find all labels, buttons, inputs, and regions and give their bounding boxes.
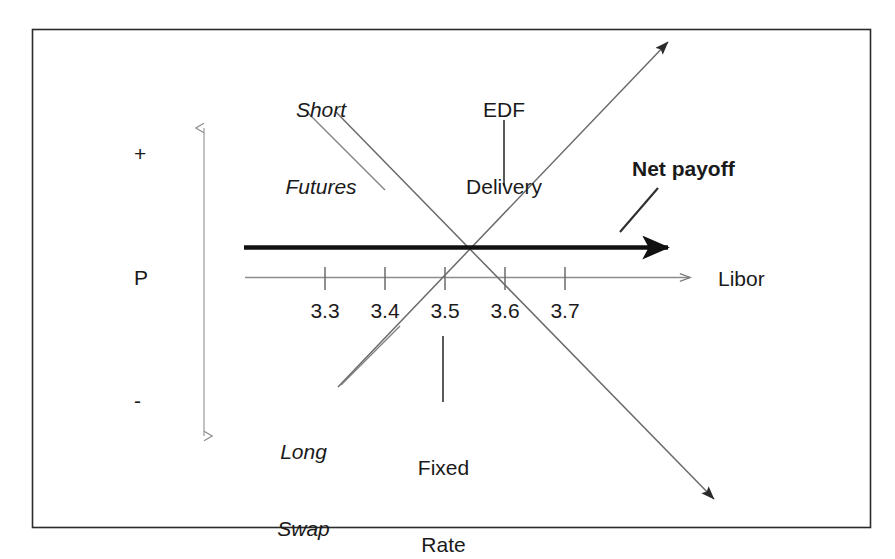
net-payoff-leader-line bbox=[620, 188, 658, 232]
fixed-rate-label-line1: Fixed bbox=[396, 455, 491, 481]
x-axis-ticks bbox=[325, 267, 565, 290]
x-tick-label: 3.4 bbox=[355, 299, 415, 323]
fixed-rate-label-line2: Rate bbox=[396, 532, 491, 558]
long-swap-label-line1: Long bbox=[256, 439, 351, 465]
edf-delivery-label: EDF Delivery bbox=[444, 46, 564, 251]
x-axis-label: Libor bbox=[718, 266, 765, 292]
y-axis-negative-symbol: - bbox=[134, 389, 141, 413]
long-swap-label-line2: Swap bbox=[256, 516, 351, 542]
y-axis-positive-symbol: + bbox=[134, 142, 146, 166]
short-futures-label: Short Futures bbox=[271, 46, 371, 251]
net-payoff-label: Net payoff bbox=[632, 156, 735, 182]
y-axis-label: P bbox=[134, 266, 148, 290]
edf-delivery-label-line1: EDF bbox=[444, 97, 564, 123]
fixed-rate-label: Fixed Rate bbox=[396, 404, 491, 559]
short-futures-label-line2: Futures bbox=[271, 174, 371, 200]
x-tick-label: 3.6 bbox=[475, 299, 535, 323]
edf-delivery-label-line2: Delivery bbox=[444, 174, 564, 200]
payoff-diagram: Short Futures EDF Delivery Net payoff Lo… bbox=[0, 0, 895, 559]
short-futures-label-line1: Short bbox=[271, 97, 371, 123]
x-tick-label: 3.3 bbox=[295, 299, 355, 323]
long-swap-leader-line bbox=[341, 326, 400, 385]
x-tick-label: 3.5 bbox=[415, 299, 475, 323]
long-swap-label: Long Swap bbox=[256, 388, 351, 559]
x-tick-label: 3.7 bbox=[535, 299, 595, 323]
